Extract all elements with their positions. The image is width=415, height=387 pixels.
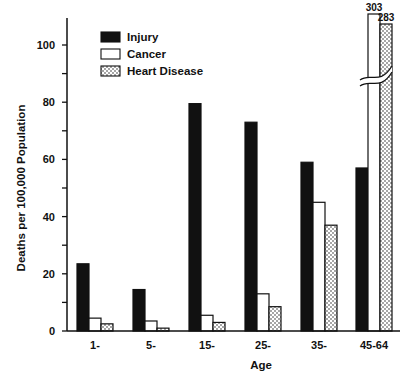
bar-injury [77,264,89,331]
bar-injury [301,162,313,331]
y-tick-label: 20 [43,268,55,280]
y-tick-label: 40 [43,211,55,223]
bars [77,14,392,331]
bar-chart: 020406080100 1-5-15-25-35-45-64 InjuryCa… [0,0,415,387]
bar-cancer [368,14,380,331]
bar-cancer [145,321,157,331]
y-axis: 020406080100 [37,18,67,337]
x-tick-label: 1- [90,339,100,351]
bar-cancer [201,315,213,331]
legend-label: Heart Disease [127,65,203,77]
y-tick-label: 100 [37,39,55,51]
bar-heart-disease [325,225,337,331]
legend-swatch-injury [101,32,120,42]
bar-injury [189,104,201,331]
bar-heart-disease [101,324,113,331]
value-label: 283 [378,12,395,23]
legend-swatch-heart-disease [101,66,120,76]
x-axis-title: Age [250,359,272,371]
bar-heart-disease [213,322,225,331]
x-tick-label: 15- [199,339,215,351]
bar-cancer [313,202,325,331]
y-tick-label: 80 [43,96,55,108]
bar-cancer [89,318,101,331]
x-tick-label: 5- [146,339,156,351]
bar-injury [356,168,368,331]
bar-injury [133,290,145,331]
legend-label: Injury [127,31,159,43]
y-tick-label: 0 [49,325,55,337]
legend: InjuryCancerHeart Disease [101,31,203,77]
x-axis: 1-5-15-25-35-45-64 [67,331,400,351]
bar-injury [245,122,257,331]
legend-swatch-cancer [101,49,120,59]
x-tick-label: 25- [255,339,271,351]
y-tick-label: 60 [43,153,55,165]
legend-label: Cancer [127,48,167,60]
bar-heart-disease [269,307,281,331]
y-axis-title: Deaths per 100,000 Population [15,105,27,272]
x-tick-label: 35- [311,339,327,351]
x-tick-label: 45-64 [360,339,389,351]
bar-cancer [257,294,269,331]
